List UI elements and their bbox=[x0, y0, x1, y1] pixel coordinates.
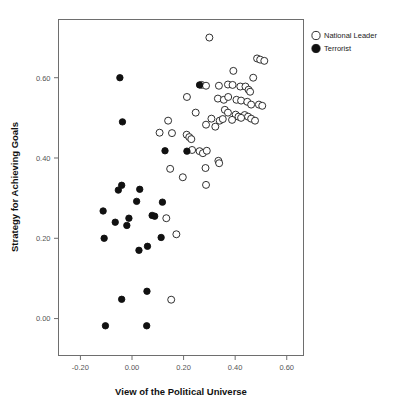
chart-canvas: -0.200.000.200.400.60 0.000.200.400.60 V… bbox=[0, 0, 394, 412]
data-point-terrorist bbox=[115, 187, 121, 193]
data-point-national-leader bbox=[216, 160, 223, 167]
data-point-national-leader bbox=[203, 181, 210, 188]
data-point-terrorist bbox=[126, 215, 132, 221]
data-point-terrorist bbox=[144, 323, 150, 329]
data-point-national-leader bbox=[202, 165, 209, 172]
data-point-national-leader bbox=[238, 114, 245, 121]
data-point-national-leader bbox=[212, 123, 219, 130]
data-point-national-leader bbox=[206, 34, 213, 41]
y-axis-title: Strategy for Achieving Goals bbox=[9, 122, 20, 252]
data-point-national-leader bbox=[163, 215, 170, 222]
data-point-national-leader bbox=[168, 296, 175, 303]
data-point-national-leader bbox=[252, 117, 259, 124]
data-point-national-leader bbox=[261, 57, 268, 64]
data-point-national-leader bbox=[229, 81, 236, 88]
x-axis-title: View of the Political Universe bbox=[115, 386, 247, 397]
x-tick-label: 0.40 bbox=[228, 363, 243, 372]
legend-marker-national-leader bbox=[312, 31, 320, 39]
data-point-national-leader bbox=[192, 109, 199, 116]
data-point-terrorist bbox=[118, 296, 124, 302]
data-point-terrorist bbox=[133, 198, 139, 204]
data-point-national-leader bbox=[188, 136, 195, 143]
data-point-national-leader bbox=[156, 129, 163, 136]
data-point-terrorist bbox=[159, 199, 165, 205]
data-point-national-leader bbox=[229, 116, 236, 123]
data-point-national-leader bbox=[219, 116, 226, 123]
data-point-terrorist bbox=[100, 208, 106, 214]
data-point-national-leader bbox=[250, 74, 257, 81]
x-tick-label: 0.60 bbox=[279, 363, 294, 372]
legend-label-terrorist: Terrorist bbox=[324, 44, 352, 53]
data-point-terrorist bbox=[196, 82, 202, 88]
data-point-terrorist bbox=[124, 222, 130, 228]
data-point-national-leader bbox=[247, 88, 254, 95]
y-tick-label: 0.60 bbox=[36, 74, 51, 83]
data-point-terrorist bbox=[137, 186, 143, 192]
y-tick-label: 0.00 bbox=[36, 314, 51, 323]
data-point-national-leader bbox=[183, 93, 190, 100]
data-point-national-leader bbox=[215, 82, 222, 89]
x-tick-label: 0.00 bbox=[125, 363, 140, 372]
data-point-terrorist bbox=[151, 213, 157, 219]
data-point-national-leader bbox=[203, 147, 210, 154]
legend-marker-terrorist bbox=[312, 44, 320, 52]
x-tick-label: 0.20 bbox=[176, 363, 191, 372]
data-point-national-leader bbox=[248, 101, 255, 108]
data-point-terrorist bbox=[101, 235, 107, 241]
data-point-terrorist bbox=[144, 288, 150, 294]
data-point-national-leader bbox=[225, 93, 232, 100]
chart-background bbox=[0, 0, 394, 412]
data-point-terrorist bbox=[144, 243, 150, 249]
data-point-national-leader bbox=[208, 115, 215, 122]
data-point-national-leader bbox=[203, 121, 210, 128]
data-point-national-leader bbox=[224, 109, 231, 116]
y-tick-label: 0.40 bbox=[36, 154, 51, 163]
data-point-terrorist bbox=[158, 234, 164, 240]
data-point-terrorist bbox=[119, 119, 125, 125]
data-point-national-leader bbox=[259, 102, 266, 109]
data-point-terrorist bbox=[112, 219, 118, 225]
x-tick-label: -0.20 bbox=[72, 363, 89, 372]
data-point-terrorist bbox=[136, 247, 142, 253]
data-point-national-leader bbox=[179, 174, 186, 181]
legend-label-national-leader: National Leader bbox=[324, 31, 377, 40]
data-point-national-leader bbox=[173, 231, 180, 238]
data-point-national-leader bbox=[167, 165, 174, 172]
data-point-national-leader bbox=[168, 130, 175, 137]
data-point-terrorist bbox=[117, 75, 123, 81]
data-point-national-leader bbox=[165, 117, 172, 124]
y-tick-label: 0.20 bbox=[36, 234, 51, 243]
data-point-national-leader bbox=[203, 82, 210, 89]
data-point-national-leader bbox=[230, 67, 237, 74]
data-point-terrorist bbox=[162, 148, 168, 154]
data-point-terrorist bbox=[184, 148, 190, 154]
scatter-plot-figure: -0.200.000.200.400.60 0.000.200.400.60 V… bbox=[0, 0, 394, 412]
data-point-terrorist bbox=[102, 323, 108, 329]
